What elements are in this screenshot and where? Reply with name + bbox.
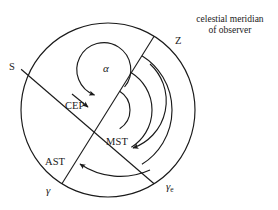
caption-line-2: of observer xyxy=(209,25,252,35)
ast-sweep-arrow xyxy=(80,164,150,176)
label-zenith: Z xyxy=(175,35,181,47)
label-mst: MST xyxy=(106,136,128,148)
label-cep: CEP xyxy=(65,100,85,112)
label-south: S xyxy=(9,61,15,73)
caption-line-1: celestial meridian xyxy=(196,14,263,24)
label-vernal-equinox-mean: γe xyxy=(166,180,174,194)
gamma-subscript-e: e xyxy=(170,185,173,194)
caption-celestial-meridian: celestial meridian of observer xyxy=(186,14,274,35)
label-vernal-equinox-true: γ xyxy=(46,184,50,196)
line-s-to-gamma-e xyxy=(21,69,154,184)
mst-sweep-arrow xyxy=(133,64,166,148)
label-right-ascension-alpha: α xyxy=(103,62,109,74)
inner-arc-alpha xyxy=(120,91,130,128)
label-ast: AST xyxy=(45,156,65,168)
mid-arc-mst xyxy=(131,73,152,148)
diagram-canvas: celestial meridian of observer Z S α CEP… xyxy=(0,0,278,210)
